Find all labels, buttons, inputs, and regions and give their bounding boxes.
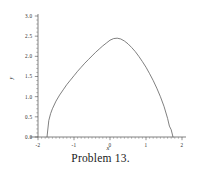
- x-axis-label: x: [106, 144, 110, 150]
- x-tick-labels: -2-1012: [36, 142, 184, 148]
- y-tick-label: 0.0: [25, 134, 32, 140]
- figure-container: 0.00.51.01.52.02.53.0 -2-1012 y x Proble…: [0, 0, 201, 177]
- figure-caption: Problem 13.: [0, 152, 201, 164]
- x-tick-marks: [38, 137, 182, 140]
- y-axis-label: y: [7, 76, 14, 80]
- y-tick-label: 1.0: [25, 94, 32, 100]
- data-curve: [47, 38, 173, 137]
- y-tick-labels: 0.00.51.01.52.02.53.0: [25, 13, 32, 140]
- axes-group: [30, 14, 186, 137]
- x-tick-label: -2: [36, 142, 41, 148]
- y-tick-label: 0.5: [25, 114, 32, 120]
- plot-svg: 0.00.51.01.52.02.53.0 -2-1012 y x: [0, 0, 201, 150]
- x-tick-label: 2: [181, 142, 184, 148]
- y-tick-label: 3.0: [25, 13, 32, 19]
- plot-area: 0.00.51.01.52.02.53.0 -2-1012 y x: [0, 0, 201, 150]
- y-tick-label: 2.0: [25, 53, 32, 59]
- y-tick-label: 1.5: [25, 73, 32, 79]
- y-tick-label: 2.5: [25, 33, 32, 39]
- y-tick-marks: [35, 16, 38, 137]
- x-tick-label: 1: [145, 142, 148, 148]
- x-tick-label: -1: [72, 142, 77, 148]
